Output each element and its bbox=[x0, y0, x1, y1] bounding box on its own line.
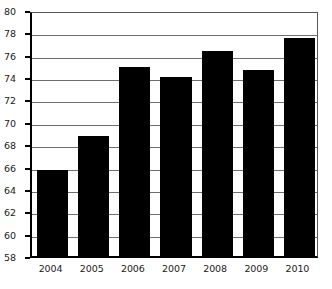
plot-area bbox=[30, 12, 318, 258]
x-axis-tick-label: 2008 bbox=[195, 264, 236, 274]
bar bbox=[160, 77, 191, 256]
y-axis-tick-label: 66 bbox=[0, 164, 16, 174]
y-axis-tick-label: 76 bbox=[0, 52, 16, 62]
y-axis-tick-label: 72 bbox=[0, 97, 16, 107]
bar bbox=[202, 51, 233, 256]
bar bbox=[119, 67, 150, 256]
x-axis-tick-label: 2006 bbox=[112, 264, 153, 274]
y-axis-tick-label: 70 bbox=[0, 119, 16, 129]
y-axis-tick-label: 68 bbox=[0, 141, 16, 151]
x-axis-tick-label: 2010 bbox=[277, 264, 318, 274]
x-axis-tick-label: 2009 bbox=[236, 264, 277, 274]
bar bbox=[37, 170, 68, 256]
y-axis-tick-label: 64 bbox=[0, 186, 16, 196]
x-axis-tick-label: 2005 bbox=[71, 264, 112, 274]
bar bbox=[284, 38, 315, 256]
y-axis-tick-label: 58 bbox=[0, 253, 16, 263]
bars-layer bbox=[32, 13, 317, 256]
bar-chart: 586062646668707274767880 200420052006200… bbox=[0, 0, 332, 289]
y-axis-tick-label: 78 bbox=[0, 30, 16, 40]
y-axis-tick-label: 60 bbox=[0, 231, 16, 241]
y-axis-tick-label: 74 bbox=[0, 74, 16, 84]
bar bbox=[78, 136, 109, 256]
bar bbox=[243, 70, 274, 256]
x-axis-tick-label: 2007 bbox=[153, 264, 194, 274]
x-axis-tick-label: 2004 bbox=[30, 264, 71, 274]
y-axis-tick-label: 62 bbox=[0, 209, 16, 219]
y-axis-tick-label: 80 bbox=[0, 7, 16, 17]
